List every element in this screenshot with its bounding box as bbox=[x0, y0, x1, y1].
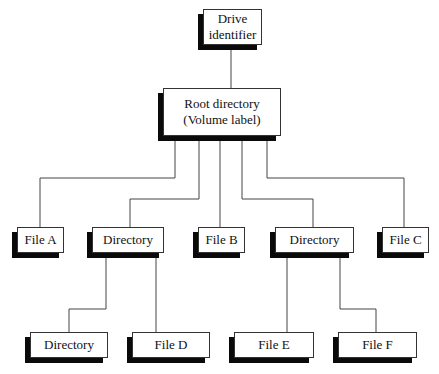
node-fileD: File D bbox=[132, 332, 210, 358]
node-label: Directory bbox=[44, 337, 94, 353]
node-dir2: Directory bbox=[275, 227, 354, 253]
edge-dir2-fileF bbox=[340, 258, 376, 332]
node-label: Directory bbox=[103, 232, 153, 248]
node-label: File E bbox=[258, 337, 289, 353]
node-label: File B bbox=[205, 232, 237, 248]
edge-root-fileC bbox=[267, 141, 404, 227]
directory-tree-diagram: DriveidentifierRoot directory(Volume lab… bbox=[0, 0, 439, 374]
edge-root-dir2 bbox=[242, 141, 313, 227]
node-fileF: File F bbox=[338, 332, 417, 358]
node-label: File F bbox=[362, 337, 393, 353]
node-fileC: File C bbox=[382, 227, 429, 253]
node-label: File D bbox=[155, 337, 188, 353]
node-fileA: File A bbox=[17, 227, 64, 253]
node-label: Directory bbox=[290, 232, 340, 248]
edge-dir1-dir3 bbox=[69, 258, 106, 332]
node-fileE: File E bbox=[234, 332, 314, 358]
edge-root-dir1 bbox=[130, 141, 199, 227]
node-label: Driveidentifier bbox=[209, 11, 257, 43]
node-root: Root directory(Volume label) bbox=[163, 88, 281, 136]
node-drive: Driveidentifier bbox=[203, 9, 262, 45]
node-label: Root directory(Volume label) bbox=[183, 96, 260, 128]
edge-root-fileA bbox=[40, 141, 175, 227]
node-dir1: Directory bbox=[92, 227, 164, 253]
node-dir3: Directory bbox=[30, 332, 108, 358]
node-label: File A bbox=[24, 232, 56, 248]
node-label: File C bbox=[389, 232, 421, 248]
connector-lines bbox=[0, 0, 439, 374]
node-fileB: File B bbox=[198, 227, 245, 253]
